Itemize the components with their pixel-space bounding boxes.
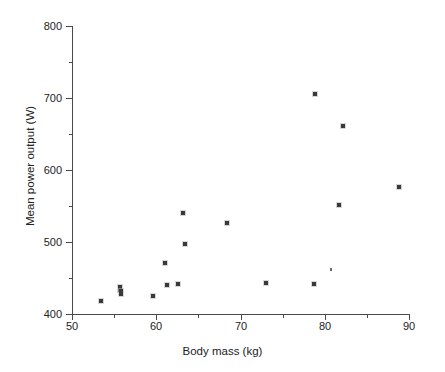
data-point [330,268,332,271]
data-point [165,283,169,287]
data-point [337,203,341,207]
data-point [397,185,401,189]
data-point [99,299,103,303]
x-minor-tick-55 [114,314,115,318]
y-minor-tick-750 [69,62,73,63]
y-tick-600 [66,170,73,171]
data-point [312,282,316,286]
data-point [181,211,185,215]
y-minor-tick-650 [69,134,73,135]
data-point [313,92,317,96]
y-tick-500 [66,242,73,243]
y-minor-tick-450 [69,278,73,279]
data-point [183,242,187,246]
x-tick-label-80: 80 [305,321,345,332]
y-minor-tick-550 [69,206,73,207]
data-point [225,221,229,225]
y-tick-label-400: 400 [22,309,62,320]
x-minor-tick-75 [283,314,284,318]
x-tick-label-90: 90 [389,321,429,332]
data-point [119,289,123,296]
x-minor-tick-85 [367,314,368,318]
x-axis-title: Body mass (kg) [0,345,445,357]
plot-area: 400500600700800 5060708090 Body mass (kg… [0,0,445,372]
data-point [176,282,180,286]
x-tick-label-60: 60 [136,321,176,332]
y-tick-label-800: 800 [22,21,62,32]
scatter-plot-figure: 400500600700800 5060708090 Body mass (kg… [0,0,445,372]
y-axis-title: Mean power output (W) [24,66,36,266]
x-tick-label-50: 50 [52,321,92,332]
data-point [163,261,167,265]
data-point [151,294,155,298]
data-point [264,281,268,285]
data-point [341,124,345,128]
y-tick-700 [66,98,73,99]
x-minor-tick-65 [198,314,199,318]
x-tick-label-70: 70 [221,321,261,332]
y-tick-800 [66,26,73,27]
